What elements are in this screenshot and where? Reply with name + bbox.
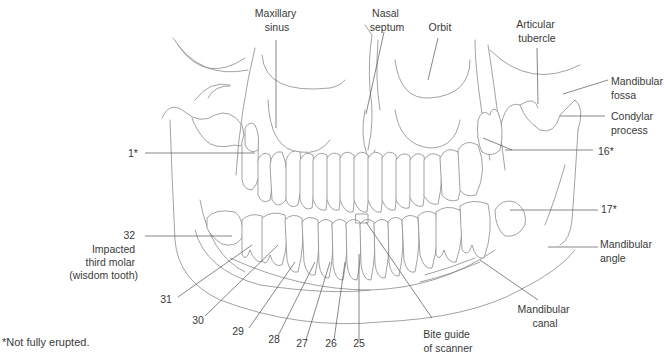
label-tooth-29: 29 (232, 325, 244, 337)
panoramic-dental-diagram: Maxillary sinus Nasal septum Orbit Artic… (0, 0, 665, 356)
label-tooth-26: 26 (325, 337, 337, 349)
label-bite-guide: Bite guide of scanner (423, 328, 473, 354)
footnote: *Not fully erupted. (2, 336, 89, 348)
label-mandibular-fossa: Mandibular fossa (611, 75, 665, 101)
label-tooth-27: 27 (296, 337, 308, 349)
label-tooth-16: 16* (598, 145, 614, 157)
label-articular-tubercle: Articular tubercle (516, 18, 557, 44)
label-nasal-septum: Nasal septum (370, 7, 405, 33)
label-orbit: Orbit (429, 21, 452, 33)
label-condylar-process: Condylar process (611, 110, 656, 136)
label-tooth-1: 1* (128, 147, 138, 159)
label-tooth-28: 28 (268, 333, 280, 345)
label-tooth-31: 31 (160, 293, 172, 305)
label-tooth-32: 32 Impacted third molar (wisdom tooth) (69, 229, 138, 281)
label-tooth-17: 17* (601, 203, 617, 215)
label-tooth-30: 30 (192, 314, 204, 326)
label-mandibular-canal: Mandibular canal (518, 303, 573, 329)
label-maxillary-sinus: Maxillary sinus (255, 7, 299, 33)
label-mandibular-angle: Mandibular angle (600, 238, 655, 264)
label-tooth-25: 25 (353, 337, 365, 349)
